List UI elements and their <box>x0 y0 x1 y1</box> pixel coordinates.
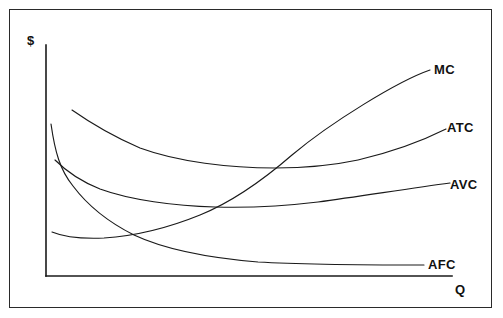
axes-group <box>46 45 452 276</box>
curve-label-mc: MC <box>434 62 455 77</box>
curve-label-avc: AVC <box>450 177 477 192</box>
y-axis-label: $ <box>27 33 34 48</box>
x-axis-label: Q <box>455 282 465 297</box>
curve-label-afc: AFC <box>428 257 456 272</box>
mc-curve <box>52 70 430 238</box>
curve-label-atc: ATC <box>447 120 474 135</box>
curves-group <box>51 70 450 265</box>
atc-curve <box>72 110 446 168</box>
cost-curves-figure: $ Q MC ATC AVC AFC <box>0 0 503 318</box>
